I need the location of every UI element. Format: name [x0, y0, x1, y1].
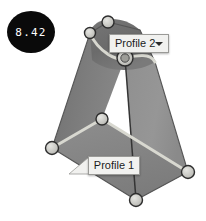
measurement-value: 8.42 [15, 27, 46, 38]
model-viewport[interactable]: 8.42 Profile 2 Profile 1 [0, 0, 206, 221]
profile-1-label[interactable]: Profile 1 [88, 156, 140, 175]
measurement-badge: 8.42 [7, 11, 55, 53]
vertex-handle-profile2-mid-inner[interactable] [121, 54, 129, 62]
profile-2-label-text: Profile 2 [115, 38, 155, 49]
vertex-handle-top[interactable] [102, 16, 114, 28]
profile-2-label[interactable]: Profile 2 [109, 34, 169, 53]
vertex-handle-bottom[interactable] [130, 194, 143, 207]
vertex-handle-left[interactable] [46, 142, 59, 155]
vertex-handle-profile1-mid[interactable] [96, 113, 108, 125]
profile-1-label-text: Profile 1 [94, 160, 134, 171]
chevron-down-icon[interactable] [155, 42, 163, 46]
vertex-handle-upper-left[interactable] [85, 28, 96, 39]
vertex-handle-right[interactable] [182, 166, 195, 179]
